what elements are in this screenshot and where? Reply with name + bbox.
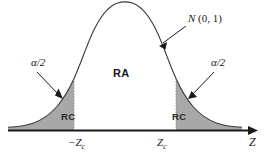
rejection-region-right-label: RC (172, 112, 186, 122)
x-axis-label: Z (249, 136, 256, 148)
distribution-label-params: (0, 1) (195, 12, 222, 24)
right-rejection-region-shading (176, 79, 242, 131)
acceptance-region-label: RA (113, 68, 130, 79)
left-rejection-region-shading (8, 79, 74, 131)
alpha-left-annotation-arrow-line (37, 72, 59, 95)
critical-value-right-subscript: c (163, 142, 166, 151)
distribution-annotation-arrow-line (163, 26, 186, 43)
alpha-right-annotation-arrowhead (188, 91, 197, 99)
alpha-left-label: α/2 (31, 57, 45, 68)
alpha-right-label: α/2 (211, 57, 225, 68)
x-axis-arrowhead (248, 126, 258, 135)
critical-value-left-symbol: −Z (68, 136, 82, 148)
distribution-plot (0, 0, 265, 158)
alpha-left-annotation-arrowhead (55, 89, 63, 100)
normal-distribution-figure: N (0, 1) α/2 α/2 RA RC RC −Zc Zc Z (0, 0, 265, 158)
distribution-annotation-arrowhead (159, 42, 167, 50)
critical-value-right-label: Zc (157, 137, 166, 151)
distribution-label: N (0, 1) (188, 13, 222, 24)
rejection-region-left-label: RC (61, 112, 75, 122)
critical-value-left-label: −Zc (68, 137, 85, 151)
alpha-right-annotation-arrow-line (192, 72, 214, 95)
critical-value-left-subscript: c (82, 142, 85, 151)
